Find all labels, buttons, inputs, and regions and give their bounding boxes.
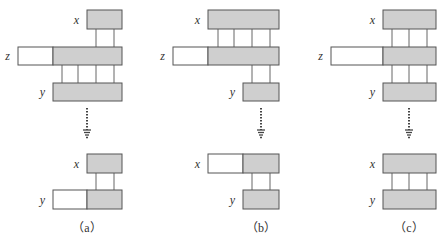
top-z-bar-label: z [4,49,10,63]
top-x-bar: x [194,10,279,29]
panels-group: xzyxy（a）xzyxy（b）xzyxy（c） [4,10,436,235]
top-z-bar-unshaded-segment [173,47,208,65]
top-y-bar-shaded-segment [53,83,122,101]
top-y-bar: y [369,83,436,101]
connectors-x-y [96,173,114,190]
top-x-bar-shaded-segment [208,10,279,29]
top-z-bar-unshaded-segment [331,47,383,65]
bottom-y-bar-label: y [229,193,236,207]
bottom-y-bar-label: y [39,193,46,207]
top-z-bar: z [159,47,279,65]
bottom-y-bar-shaded-segment [383,190,436,209]
bottom-x-bar-label: x [369,157,376,171]
top-x-bar-shaded-segment [383,10,436,29]
bottom-x-bar: x [194,154,279,173]
connectors-x-z [218,29,270,47]
panel-a: xzyxy（a） [4,10,122,235]
bottom-y-bar: y [369,190,436,209]
top-x-bar: x [369,10,436,29]
top-x-bar-label: x [194,13,201,27]
top-z-bar-shaded-segment [383,47,436,65]
bottom-y-bar-unshaded-segment [53,190,87,209]
bottom-x-bar-shaded-segment [87,154,122,173]
top-y-bar-label: y [39,85,46,99]
top-z-bar-label: z [159,49,165,63]
bottom-y-bar-shaded-segment [243,190,279,209]
bottom-x-bar-unshaded-segment [208,154,243,173]
panel-b: xzyxy（b） [159,10,279,235]
top-y-bar: y [39,83,122,101]
top-y-bar: y [229,83,279,101]
diagram-canvas: xzyxy（a）xzyxy（b）xzyxy（c） [0,0,442,240]
top-z-bar: z [4,47,122,65]
panel-c: xzyxy（c） [317,10,436,235]
transform-arrow-icon [83,108,91,138]
top-y-bar-label: y [229,85,236,99]
bottom-y-bar-label: y [369,193,376,207]
bottom-y-bar-shaded-segment [87,190,122,209]
top-z-bar-label: z [317,49,323,63]
connectors-x-y [252,173,270,190]
top-y-bar-label: y [369,85,376,99]
bottom-x-bar-label: x [194,157,201,171]
connectors-x-y [392,173,427,190]
bottom-x-bar-shaded-segment [383,154,436,173]
top-x-bar: x [73,10,122,29]
panel-caption: （a） [72,221,101,235]
top-z-bar: z [317,47,436,65]
top-x-bar-label: x [73,13,80,27]
panel-caption: （b） [246,221,276,235]
top-z-bar-unshaded-segment [18,47,53,65]
bottom-x-bar: x [369,154,436,173]
transform-arrow-icon [257,108,265,138]
transform-arrow-icon [405,108,413,138]
bottom-y-bar: y [229,190,279,209]
connectors-z-y [252,65,270,83]
connectors-x-z [392,29,427,47]
connectors-z-y [392,65,427,83]
bottom-x-bar-label: x [73,157,80,171]
connectors-x-z [96,29,114,47]
top-x-bar-shaded-segment [87,10,122,29]
bottom-y-bar: y [39,190,122,209]
panel-caption: （c） [394,221,423,235]
top-z-bar-shaded-segment [208,47,279,65]
top-y-bar-shaded-segment [383,83,436,101]
top-z-bar-shaded-segment [53,47,122,65]
top-y-bar-shaded-segment [243,83,279,101]
top-x-bar-label: x [369,13,376,27]
bottom-x-bar: x [73,154,122,173]
connectors-z-y [62,65,114,83]
bottom-x-bar-shaded-segment [243,154,279,173]
